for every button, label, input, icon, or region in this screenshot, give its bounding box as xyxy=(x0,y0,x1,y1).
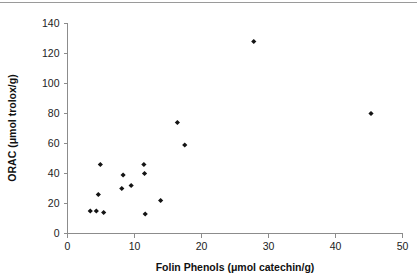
y-axis-title: ORAC (μmol trolox/g) xyxy=(6,74,18,181)
x-axis-tick-label: 10 xyxy=(129,240,141,252)
x-axis-tick-label: 50 xyxy=(397,240,409,252)
scatter-plot-canvas: 020406080100120140 01020304050 Folin Phe… xyxy=(0,0,417,277)
data-points xyxy=(88,39,374,217)
y-axis-tick-label: 100 xyxy=(42,77,60,89)
data-point xyxy=(251,39,256,44)
y-axis-tick-label: 120 xyxy=(42,47,60,59)
chart-figure: 020406080100120140 01020304050 Folin Phe… xyxy=(0,0,417,277)
data-point xyxy=(182,142,187,147)
data-point xyxy=(98,162,103,167)
y-axis-tick-label: 80 xyxy=(48,107,60,119)
data-point xyxy=(94,208,99,213)
data-point xyxy=(121,172,126,177)
x-axis-tick-label: 0 xyxy=(65,240,71,252)
data-point xyxy=(158,198,163,203)
x-axis-title: Folin Phenols (μmol catechin/g) xyxy=(156,261,315,273)
y-axis-tick-label: 60 xyxy=(48,137,60,149)
data-point xyxy=(142,171,147,176)
data-point xyxy=(175,120,180,125)
x-axis-tick-label: 30 xyxy=(263,240,275,252)
y-axis-tick-label: 40 xyxy=(48,167,60,179)
data-point xyxy=(96,192,101,197)
x-axis-tick-label: 40 xyxy=(330,240,342,252)
data-point xyxy=(119,186,124,191)
data-point xyxy=(141,162,146,167)
data-point xyxy=(143,211,148,216)
x-axis-tick-label: 20 xyxy=(196,240,208,252)
data-point xyxy=(88,208,93,213)
y-axis-tick-label: 0 xyxy=(54,227,60,239)
data-point xyxy=(101,210,106,215)
y-axis-tick-label: 140 xyxy=(42,17,60,29)
data-point xyxy=(368,111,373,116)
y-axis: 020406080100120140 xyxy=(42,17,68,239)
y-axis-tick-label: 20 xyxy=(48,197,60,209)
x-axis: 01020304050 xyxy=(65,234,409,252)
data-point xyxy=(129,183,134,188)
